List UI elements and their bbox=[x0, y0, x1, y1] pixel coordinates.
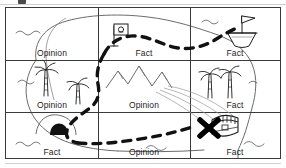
cell-label-r1c1: Opinion bbox=[129, 100, 159, 110]
cell-label-r2c2: Fact bbox=[227, 147, 244, 157]
cell-label-r2c0: Fact bbox=[44, 147, 61, 157]
route-segment-bottom bbox=[78, 126, 196, 144]
treasure-map-frame: Opinion Fact Fact Opinion Opinion Fact F… bbox=[5, 7, 281, 159]
cell-label-r0c0: Opinion bbox=[37, 48, 67, 58]
treasure-map-drawing bbox=[6, 8, 280, 158]
palm-tree-pair-icon bbox=[199, 66, 241, 98]
top-divider-rule bbox=[0, 4, 286, 5]
palm-tree-icon bbox=[35, 60, 58, 96]
cell-label-r2c1: Opinion bbox=[129, 147, 159, 157]
cell-label-r1c2: Fact bbox=[227, 100, 244, 110]
palm-tree-small-icon bbox=[67, 78, 89, 104]
mountain-range-icon bbox=[106, 66, 172, 88]
cell-label-r0c1: Fact bbox=[136, 48, 153, 58]
shoreline-inner-line bbox=[46, 18, 66, 100]
cell-label-r0c2: Fact bbox=[227, 48, 244, 58]
cropped-heading-strip bbox=[0, 0, 286, 6]
cell-label-r1c0: Opinion bbox=[37, 100, 67, 110]
bottom-divider-rule bbox=[5, 163, 281, 164]
